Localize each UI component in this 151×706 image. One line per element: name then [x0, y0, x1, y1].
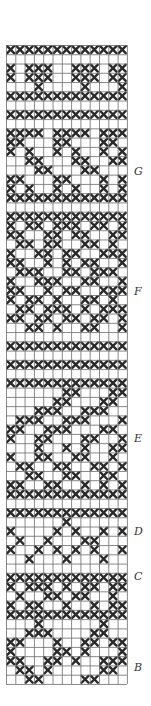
- cross-stitch: [110, 398, 117, 405]
- cross-stitch: [72, 472, 79, 479]
- cross-stitch: [110, 231, 117, 238]
- cross-stitch: [91, 93, 98, 100]
- cross-stitch: [119, 509, 126, 516]
- cross-stitch: [100, 657, 107, 664]
- cross-stitch: [91, 213, 98, 220]
- cross-stitch: [119, 574, 126, 581]
- cross-stitch: [100, 361, 107, 368]
- cross-stitch: [7, 296, 14, 303]
- cross-stitch: [100, 556, 107, 563]
- cross-stitch: [100, 528, 107, 535]
- cross-stitch: [54, 593, 61, 600]
- cross-stitch: [119, 222, 126, 229]
- cross-stitch: [44, 509, 51, 516]
- cross-stitch: [110, 287, 117, 294]
- cross-stitch: [100, 481, 107, 488]
- cross-stitch: [44, 287, 51, 294]
- cross-stitch: [72, 213, 79, 220]
- cross-stitch: [54, 639, 61, 646]
- cross-stitch: [100, 148, 107, 155]
- cross-stitch: [17, 481, 24, 488]
- cross-stitch: [17, 287, 24, 294]
- cross-stitch: [119, 130, 126, 137]
- cross-stitch: [119, 324, 126, 331]
- cross-stitch: [7, 74, 14, 81]
- cross-stitch: [44, 630, 51, 637]
- cross-stitch: [35, 83, 42, 90]
- cross-stitch: [91, 574, 98, 581]
- cross-stitch: [54, 324, 61, 331]
- cross-stitch: [100, 343, 107, 350]
- cross-stitch: [54, 546, 61, 553]
- cross-stitch: [72, 315, 79, 322]
- cross-stitch: [26, 222, 33, 229]
- cross-stitch: [82, 324, 89, 331]
- cross-stitch: [72, 65, 79, 72]
- cross-stitch: [119, 83, 126, 90]
- cross-stitch: [7, 454, 14, 461]
- cross-stitch: [119, 583, 126, 590]
- cross-stitch: [63, 380, 70, 387]
- cross-stitch: [63, 268, 70, 275]
- cross-stitch: [72, 93, 79, 100]
- cross-stitch: [119, 602, 126, 609]
- cross-stitch: [35, 491, 42, 498]
- cross-stitch: [7, 639, 14, 646]
- cross-stitch: [100, 222, 107, 229]
- cross-stitch: [7, 231, 14, 238]
- cross-stitch: [54, 380, 61, 387]
- cross-stitch: [119, 639, 126, 646]
- cross-stitch: [100, 250, 107, 257]
- stitch-chart: [6, 45, 128, 686]
- cross-stitch: [72, 111, 79, 118]
- cross-stitch: [44, 74, 51, 81]
- cross-stitch: [26, 509, 33, 516]
- cross-stitch: [100, 491, 107, 498]
- cross-stitch: [82, 537, 89, 544]
- cross-stitch: [17, 46, 24, 53]
- cross-stitch: [91, 380, 98, 387]
- cross-stitch: [26, 417, 33, 424]
- cross-stitch: [110, 389, 117, 396]
- cross-stitch: [54, 574, 61, 581]
- cross-stitch: [26, 185, 33, 192]
- cross-stitch: [91, 268, 98, 275]
- cross-stitch: [7, 657, 14, 664]
- cross-stitch: [63, 463, 70, 470]
- cross-stitch: [44, 361, 51, 368]
- cross-stitch: [110, 380, 117, 387]
- cross-stitch: [26, 463, 33, 470]
- cross-stitch: [110, 111, 117, 118]
- cross-stitch: [72, 268, 79, 275]
- cross-stitch: [100, 472, 107, 479]
- cross-stitch: [63, 426, 70, 433]
- cross-stitch: [54, 296, 61, 303]
- cross-stitch: [72, 528, 79, 535]
- cross-stitch: [63, 139, 70, 146]
- cross-stitch: [63, 222, 70, 229]
- cross-stitch: [100, 611, 107, 618]
- cross-stitch: [72, 287, 79, 294]
- cross-stitch: [110, 426, 117, 433]
- cross-stitch: [44, 583, 51, 590]
- cross-stitch: [119, 481, 126, 488]
- cross-stitch: [100, 93, 107, 100]
- cross-stitch: [26, 343, 33, 350]
- cross-stitch: [54, 407, 61, 414]
- cross-stitch: [7, 222, 14, 229]
- cross-stitch: [100, 620, 107, 627]
- cross-stitch: [17, 194, 24, 201]
- cross-stitch: [17, 139, 24, 146]
- cross-stitch: [100, 268, 107, 275]
- cross-stitch: [35, 250, 42, 257]
- cross-stitch: [35, 454, 42, 461]
- cross-stitch: [72, 361, 79, 368]
- cross-stitch: [82, 83, 89, 90]
- cross-stitch: [82, 278, 89, 285]
- cross-stitch: [26, 74, 33, 81]
- cross-stitch: [63, 648, 70, 655]
- cross-stitch: [119, 389, 126, 396]
- cross-stitch: [100, 509, 107, 516]
- cross-stitch: [72, 343, 79, 350]
- cross-stitch: [91, 343, 98, 350]
